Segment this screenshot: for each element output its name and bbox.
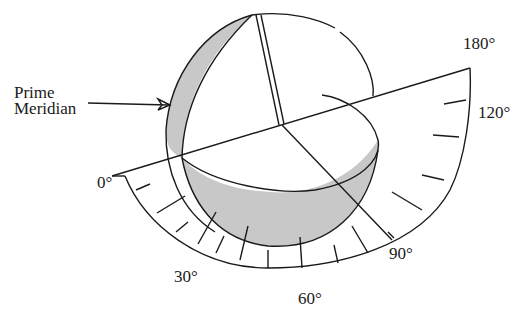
scale-label-60: 60° [298, 290, 322, 307]
meridian-line-a [256, 15, 279, 125]
prime-meridian-wedge-shade [166, 15, 252, 158]
meridian-line-b [261, 15, 284, 124]
prime-meridian-arrow-line [88, 103, 168, 105]
hemisphere-diagram [0, 0, 523, 318]
scale-label-120: 120° [478, 104, 510, 121]
zero-to-180-line [112, 68, 470, 176]
upper-hemisphere-outline [252, 14, 335, 28]
prime-meridian-label-line2: Meridian [14, 100, 76, 118]
upper-hemisphere-outline-right [340, 32, 373, 96]
scale-label-180: 180° [463, 35, 495, 52]
scale-label-90: 90° [389, 245, 413, 262]
scale-label-0: 0° [97, 174, 112, 191]
scale-label-30: 30° [174, 268, 198, 285]
